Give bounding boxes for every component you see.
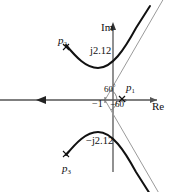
pole-label-p3: p3 [62, 163, 71, 176]
angle-negative-label: −60° [110, 99, 127, 109]
pole-label-p2-sub: 2 [64, 40, 67, 47]
imaginary-axis-label: Im [101, 22, 113, 33]
real-axis-label: Re [152, 101, 164, 112]
degree-symbol-positive: ° [113, 83, 116, 90]
degree-symbol-negative: ° [124, 98, 127, 105]
j-positive-crossing-label: j2.12 [90, 46, 111, 57]
root-locus-figure [0, 0, 180, 192]
locus-upper-branch [66, 6, 150, 68]
pole-label-p3-sub: 3 [68, 168, 71, 175]
j-negative-crossing-label: −j2.12 [86, 136, 113, 147]
real-axis-locus-arrow [36, 96, 46, 104]
angle-positive-value: 60 [104, 84, 113, 94]
angle-negative-value: −60 [110, 99, 124, 109]
pole-label-p1: p1 [126, 82, 135, 95]
angle-positive-label: 60° [104, 84, 116, 94]
pole-label-p2: p2 [58, 35, 67, 48]
pole-label-p1-sub: 1 [132, 87, 135, 94]
breakaway-point-label: −1 [92, 99, 103, 109]
